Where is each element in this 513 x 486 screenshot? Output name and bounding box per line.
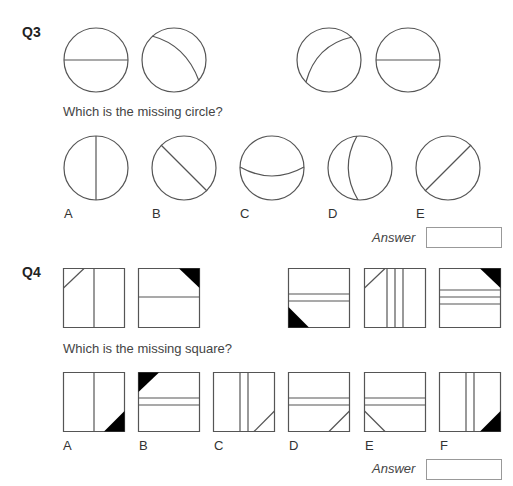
q4-option-c-label[interactable]: C (214, 438, 223, 453)
q3-answer-label: Answer (372, 230, 415, 245)
q3-option-c-label[interactable]: C (240, 206, 249, 221)
q4-option-b-figure[interactable] (138, 372, 200, 432)
q4-option-a-figure[interactable] (63, 372, 125, 432)
q4-sequence-square-6 (439, 268, 501, 328)
q3-option-b-label[interactable]: B (152, 206, 161, 221)
q3-sequence-circle-1 (63, 27, 129, 93)
q3-prompt: Which is the missing circle? (63, 104, 223, 119)
q3-answer-input[interactable] (426, 227, 502, 248)
q4-option-d-label[interactable]: D (289, 438, 298, 453)
q4-answer-label: Answer (372, 461, 415, 476)
question-number-q4: Q4 (22, 264, 41, 280)
q3-option-a-label[interactable]: A (64, 206, 73, 221)
q3-option-e-figure[interactable] (415, 135, 481, 201)
q3-option-b-figure[interactable] (151, 135, 217, 201)
q3-sequence-circle-5 (375, 27, 441, 93)
q3-sequence-circle-4 (296, 27, 362, 93)
question-number-q3: Q3 (22, 24, 41, 40)
q3-sequence-circle-2 (141, 27, 207, 93)
q4-option-e-label[interactable]: E (365, 438, 374, 453)
q4-option-e-figure[interactable] (364, 372, 426, 432)
q3-option-c-figure[interactable] (239, 135, 305, 201)
q4-sequence-square-1 (63, 268, 125, 328)
q4-option-f-label[interactable]: F (440, 438, 448, 453)
q4-option-c-figure[interactable] (213, 372, 275, 432)
q4-option-a-label[interactable]: A (63, 438, 72, 453)
q4-answer-input[interactable] (426, 459, 502, 480)
q3-option-d-figure[interactable] (327, 135, 393, 201)
q4-sequence-square-4 (288, 268, 350, 328)
q3-option-a-figure[interactable] (63, 135, 129, 201)
q4-option-f-figure[interactable] (439, 372, 501, 432)
q4-sequence-square-5 (364, 268, 426, 328)
q4-prompt: Which is the missing square? (63, 341, 232, 356)
q3-option-d-label[interactable]: D (328, 206, 337, 221)
q3-option-e-label[interactable]: E (416, 206, 425, 221)
q4-option-d-figure[interactable] (288, 372, 350, 432)
q4-option-b-label[interactable]: B (139, 438, 148, 453)
q4-sequence-square-2 (138, 268, 200, 328)
